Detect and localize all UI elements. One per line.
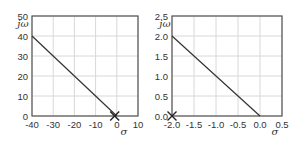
- x-tick-label: -20: [68, 119, 82, 130]
- y-tick-label: 2.0: [155, 31, 168, 42]
- x-axis-label: σ: [272, 126, 280, 137]
- x-tick-label: 0.0: [253, 119, 266, 130]
- x-axis-label: σ: [121, 126, 129, 137]
- x-tick-label: -1.0: [208, 119, 224, 130]
- x-tick-label: -10: [89, 119, 103, 130]
- x-tick-label: -0.5: [230, 119, 246, 130]
- y-tick-label: 10: [17, 91, 28, 102]
- plot-frame: [172, 16, 282, 116]
- y-tick-label: 40: [17, 31, 28, 42]
- y-axis-label: jω: [157, 18, 170, 29]
- x-tick-label: -30: [46, 119, 60, 130]
- plot-frame: [32, 16, 138, 116]
- x-tick-label: -2.0: [164, 119, 180, 130]
- x-tick-label: 10: [133, 119, 144, 130]
- y-axis-label: jω: [15, 18, 28, 29]
- y-tick-label: 1.5: [155, 51, 168, 62]
- y-tick-label: 30: [17, 51, 28, 62]
- x-tick-label: -1.5: [186, 119, 202, 130]
- y-tick-label: 1.0: [155, 71, 168, 82]
- root-locus-figure: 01020304050-40-30-20-10010jωσ0.00.51.01.…: [0, 0, 301, 146]
- y-tick-label: 20: [17, 71, 28, 82]
- y-tick-label: 0.5: [155, 91, 168, 102]
- x-tick-label: -40: [25, 119, 39, 130]
